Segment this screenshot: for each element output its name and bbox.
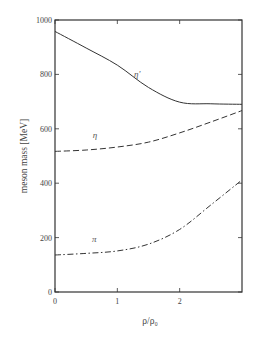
meson-mass-chart: 01202004006008001000 η'ηπ ρ/ρ₀ meson mas…: [0, 0, 256, 338]
x-tick-label: 0: [53, 297, 57, 306]
x-axis-label: ρ/ρ₀: [142, 316, 157, 326]
curve-dashed: [55, 111, 242, 152]
y-axis-label: meson mass [MeV]: [19, 119, 29, 193]
curve-dash-dot: [55, 180, 242, 255]
y-tick-label: 800: [40, 70, 52, 79]
curve-labels: η'ηπ: [92, 69, 142, 244]
x-tick-label: 1: [115, 297, 119, 306]
y-tick-label: 600: [40, 125, 52, 134]
curve-label: η': [134, 69, 141, 79]
plot-border: [55, 20, 242, 292]
curve-label: π: [92, 234, 97, 244]
curves: [55, 31, 242, 255]
curve-label: η: [93, 130, 98, 140]
y-tick-label: 1000: [36, 16, 52, 25]
plot-frame: [55, 20, 242, 292]
curve-solid: [55, 31, 242, 104]
axis-ticks: 01202004006008001000: [36, 16, 242, 306]
y-tick-label: 200: [40, 234, 52, 243]
y-tick-label: 0: [48, 288, 52, 297]
x-tick-label: 2: [178, 297, 182, 306]
y-tick-label: 400: [40, 179, 52, 188]
